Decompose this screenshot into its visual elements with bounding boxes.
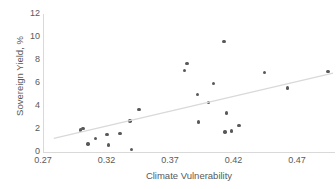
data-point xyxy=(230,129,233,132)
data-point xyxy=(94,137,97,140)
data-point xyxy=(86,142,89,145)
data-point xyxy=(79,128,82,131)
x-tick-label: 0.47 xyxy=(277,156,317,165)
data-point xyxy=(197,120,200,123)
y-tick-text: 10 xyxy=(20,32,40,41)
data-point xyxy=(107,143,110,146)
data-point xyxy=(196,93,199,96)
data-point xyxy=(207,101,210,104)
data-point xyxy=(137,108,140,111)
data-point xyxy=(326,70,329,73)
y-tick-text: 8 xyxy=(20,55,40,64)
data-point xyxy=(222,40,225,43)
data-point xyxy=(223,130,226,133)
data-point xyxy=(118,132,121,135)
data-point xyxy=(105,133,108,136)
data-point xyxy=(130,148,133,151)
y-tick-text: 6 xyxy=(20,78,40,87)
y-tick-text: 12 xyxy=(20,9,40,18)
x-tick-label: 0.42 xyxy=(213,156,253,165)
y-tick-label: 6 xyxy=(20,78,40,88)
y-tick-text: 4 xyxy=(20,101,40,110)
x-tick-label: 0.32 xyxy=(86,156,126,165)
data-point xyxy=(263,71,266,74)
data-point xyxy=(212,82,215,85)
data-point xyxy=(185,62,188,65)
y-tick-label: 2 xyxy=(20,124,40,134)
x-axis-title: Climate Vulnerability xyxy=(48,170,330,181)
plot-area xyxy=(43,14,335,153)
y-tick-label: 8 xyxy=(20,55,40,65)
scatter-chart: Sovereign Yield, % 024681012 0.270.320.3… xyxy=(0,0,336,189)
data-point xyxy=(183,69,186,72)
x-tick-label: 0.27 xyxy=(23,156,63,165)
y-tick-label: 10 xyxy=(20,32,40,42)
data-point xyxy=(128,119,131,122)
x-tick-label: 0.37 xyxy=(150,156,190,165)
y-tick-label: 12 xyxy=(20,9,40,19)
data-point xyxy=(225,111,228,114)
y-tick-label: 4 xyxy=(20,101,40,111)
data-point xyxy=(237,124,240,127)
data-point xyxy=(286,86,289,89)
y-tick-text: 2 xyxy=(20,124,40,133)
